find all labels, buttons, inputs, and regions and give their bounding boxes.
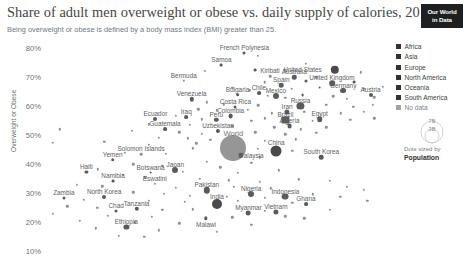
data-point-unlabeled[interactable] (228, 179, 230, 181)
data-point-unlabeled[interactable] (301, 94, 304, 97)
data-point-unlabeled[interactable] (290, 87, 293, 90)
data-point-unlabeled[interactable] (363, 111, 365, 113)
data-point-unlabeled[interactable] (209, 139, 211, 141)
data-point[interactable] (228, 114, 233, 119)
data-point-unlabeled[interactable] (192, 147, 194, 149)
data-point-unlabeled[interactable] (254, 131, 256, 133)
data-point-unlabeled[interactable] (103, 140, 105, 142)
data-point-unlabeled[interactable] (188, 124, 190, 126)
data-point-unlabeled[interactable] (233, 186, 235, 188)
data-point-unlabeled[interactable] (312, 193, 314, 195)
data-point-unlabeled[interactable] (101, 185, 103, 187)
data-point[interactable] (112, 180, 115, 183)
data-point-unlabeled[interactable] (147, 144, 149, 146)
data-point[interactable] (246, 211, 251, 216)
data-point-unlabeled[interactable] (204, 70, 206, 72)
data-point[interactable] (220, 135, 246, 161)
data-point-unlabeled[interactable] (315, 132, 317, 134)
legend-item-europe[interactable]: Europe (396, 62, 466, 72)
data-point[interactable] (153, 117, 157, 121)
data-point-unlabeled[interactable] (264, 140, 266, 142)
data-point-unlabeled[interactable] (264, 117, 266, 119)
data-point-unlabeled[interactable] (236, 171, 238, 173)
data-point-unlabeled[interactable] (58, 128, 60, 130)
data-point[interactable] (319, 155, 324, 160)
data-point-unlabeled[interactable] (325, 103, 328, 106)
data-point[interactable] (304, 202, 308, 206)
data-point-unlabeled[interactable] (52, 141, 54, 143)
data-point-unlabeled[interactable] (352, 106, 354, 108)
data-point-unlabeled[interactable] (182, 170, 184, 172)
data-point[interactable] (369, 93, 373, 97)
data-point-unlabeled[interactable] (329, 208, 331, 210)
data-point[interactable] (287, 124, 292, 129)
data-point-unlabeled[interactable] (271, 112, 273, 114)
data-point[interactable] (273, 209, 278, 214)
data-point-unlabeled[interactable] (264, 210, 266, 212)
data-point-unlabeled[interactable] (311, 119, 314, 122)
data-point[interactable] (340, 88, 346, 94)
data-point-unlabeled[interactable] (219, 166, 221, 168)
data-point[interactable] (243, 51, 246, 54)
data-point-unlabeled[interactable] (206, 161, 208, 163)
data-point[interactable] (140, 153, 143, 156)
data-point-unlabeled[interactable] (200, 118, 202, 120)
data-point-unlabeled[interactable] (158, 229, 160, 231)
data-point[interactable] (297, 102, 304, 109)
data-point-unlabeled[interactable] (366, 200, 368, 202)
data-point-unlabeled[interactable] (332, 95, 335, 98)
data-point-unlabeled[interactable] (195, 142, 197, 144)
data-point-unlabeled[interactable] (303, 110, 306, 113)
data-point-unlabeled[interactable] (284, 97, 286, 99)
legend-item-north-america[interactable]: North America (396, 73, 466, 83)
data-point-unlabeled[interactable] (78, 220, 80, 222)
data-point[interactable] (184, 115, 188, 119)
data-point-unlabeled[interactable] (250, 162, 252, 164)
data-point-unlabeled[interactable] (163, 193, 165, 195)
data-point-unlabeled[interactable] (340, 112, 342, 114)
data-point-unlabeled[interactable] (132, 163, 134, 165)
data-point-unlabeled[interactable] (199, 178, 201, 180)
data-point[interactable] (248, 191, 254, 197)
data-point-unlabeled[interactable] (249, 89, 251, 91)
data-point-unlabeled[interactable] (305, 62, 307, 64)
data-point-unlabeled[interactable] (298, 178, 300, 180)
data-point[interactable] (329, 80, 335, 86)
data-point-unlabeled[interactable] (247, 109, 249, 111)
legend-item-africa[interactable]: Africa (396, 42, 466, 52)
data-point[interactable] (285, 109, 290, 114)
data-point-unlabeled[interactable] (200, 133, 202, 135)
data-point[interactable] (163, 127, 167, 131)
data-point-unlabeled[interactable] (175, 115, 177, 117)
data-point[interactable] (279, 83, 284, 88)
data-point[interactable] (204, 217, 207, 220)
data-point[interactable] (216, 129, 220, 133)
owid-logo[interactable]: Our World in Data (421, 4, 463, 28)
data-point-unlabeled[interactable] (82, 199, 84, 201)
data-point-unlabeled[interactable] (257, 55, 259, 57)
data-point-unlabeled[interactable] (264, 196, 266, 198)
legend-item-south-america[interactable]: South America (396, 93, 466, 103)
data-point-unlabeled[interactable] (158, 137, 160, 139)
data-point-unlabeled[interactable] (303, 217, 305, 219)
data-point-unlabeled[interactable] (197, 108, 199, 110)
legend-item-asia[interactable]: Asia (396, 52, 466, 62)
data-point-unlabeled[interactable] (225, 195, 227, 197)
data-point-unlabeled[interactable] (284, 133, 286, 135)
data-point-unlabeled[interactable] (132, 191, 134, 193)
data-point[interactable] (330, 65, 338, 73)
data-point-unlabeled[interactable] (257, 147, 259, 149)
data-point-unlabeled[interactable] (346, 186, 348, 188)
data-point-unlabeled[interactable] (134, 221, 136, 223)
data-point-unlabeled[interactable] (346, 97, 348, 99)
data-point-unlabeled[interactable] (325, 126, 327, 128)
data-point-unlabeled[interactable] (216, 109, 218, 111)
data-point-unlabeled[interactable] (363, 188, 365, 190)
data-point[interactable] (189, 97, 193, 101)
data-point[interactable] (234, 106, 237, 109)
data-point-unlabeled[interactable] (349, 119, 351, 121)
data-point-unlabeled[interactable] (178, 222, 180, 224)
data-point[interactable] (204, 187, 210, 193)
data-point-unlabeled[interactable] (76, 183, 78, 185)
data-point[interactable] (317, 116, 323, 122)
